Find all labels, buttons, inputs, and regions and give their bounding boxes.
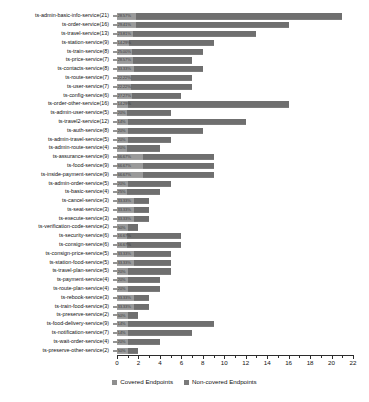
bar-segment-non-covered — [136, 22, 288, 28]
y-tick-mark — [113, 157, 117, 158]
y-axis-label: ts-assurance-service(9) — [53, 154, 109, 159]
bar-percentage-label: 33.33% — [118, 208, 131, 212]
bar-row: 20% — [117, 339, 160, 345]
y-tick-mark — [113, 271, 117, 272]
bar-row: 28.57% — [117, 13, 342, 19]
chart-legend: Covered Endpoints Non-covered Endpoints — [0, 379, 369, 385]
x-tick-minor — [128, 355, 129, 358]
bar-percentage-label: 25% — [118, 190, 126, 194]
plot-area: 28.57%29.41%23.81%14.29%25.00%28.57%33.3… — [117, 12, 353, 355]
y-axis-label: ts-consign-price-service(5) — [45, 251, 109, 256]
bar-percentage-label: 50% — [118, 225, 126, 229]
bar-segment-covered: 20% — [117, 136, 128, 142]
bar-row: 25.00% — [117, 48, 203, 54]
y-tick-mark — [113, 60, 117, 61]
bar-percentage-label: 28.57% — [118, 58, 131, 62]
bar-percentage-label: 14.29% — [118, 41, 131, 45]
y-tick-mark — [113, 95, 117, 96]
y-axis-label: ts-train-service(8) — [67, 49, 109, 54]
bar-segment-non-covered — [134, 216, 149, 222]
y-tick-mark — [113, 236, 117, 237]
bar-percentage-label: 20% — [118, 146, 126, 150]
bar-row: 33.33% — [117, 251, 171, 257]
legend-swatch-non-covered — [184, 380, 189, 385]
bar-segment-non-covered — [132, 92, 181, 98]
bar-segment-covered: 14.29% — [117, 101, 128, 107]
bar-segment-covered: 23.81% — [117, 31, 133, 37]
bar-row: 22.22% — [117, 84, 192, 90]
bar-segment-non-covered — [143, 154, 214, 160]
bar-row: 14% — [117, 321, 214, 327]
bar-segment-covered: 33.33% — [117, 304, 134, 310]
x-tick-label: 10 — [221, 360, 228, 366]
bar-segment-non-covered — [128, 119, 246, 125]
x-tick-label: 18 — [307, 360, 314, 366]
bar-percentage-label: 16.67% — [118, 243, 131, 247]
x-tick-minor — [149, 355, 150, 358]
bar-segment-covered: 50% — [117, 224, 128, 230]
y-axis-label: ts-payment-service(4) — [57, 278, 109, 283]
bar-segment-covered: 20% — [117, 268, 128, 274]
legend-item-non-covered: Non-covered Endpoints — [184, 379, 257, 385]
bar-segment-non-covered — [128, 277, 160, 283]
y-tick-mark — [113, 324, 117, 325]
bar-segment-non-covered — [143, 163, 214, 169]
y-axis-label: ts-travel-service(13) — [61, 31, 109, 36]
legend-swatch-covered — [112, 380, 117, 385]
bar-percentage-label: 33.33% — [118, 199, 131, 203]
y-tick-mark — [113, 77, 117, 78]
bar-segment-covered: 14% — [117, 321, 128, 327]
y-tick-mark — [113, 33, 117, 34]
legend-item-covered: Covered Endpoints — [112, 379, 173, 385]
bar-row: 33.33% — [117, 295, 149, 301]
bar-percentage-label: 14.29% — [118, 102, 131, 106]
x-tick-label: 22 — [350, 360, 357, 366]
y-axis-label: ts-admin-order-service(5) — [48, 181, 109, 186]
y-tick-mark — [113, 218, 117, 219]
bar-segment-non-covered — [128, 339, 160, 345]
bar-segment-covered: 20% — [117, 180, 128, 186]
bar-segment-covered: 33.33% — [117, 66, 134, 72]
y-axis-label: ts-security-service(6) — [59, 234, 109, 239]
bar-percentage-label: 50% — [118, 348, 126, 352]
y-tick-mark — [113, 350, 117, 351]
bar-segment-non-covered — [134, 66, 203, 72]
bar-segment-covered: 33.33% — [117, 216, 134, 222]
bar-percentage-label: 33.33% — [118, 261, 131, 265]
bar-segment-non-covered — [128, 330, 192, 336]
bar-percentage-label: 20% — [118, 129, 126, 133]
y-axis-label: ts-seat-service(3) — [67, 207, 109, 212]
bar-row: 14.29% — [117, 101, 289, 107]
y-tick-mark — [113, 245, 117, 246]
bar-percentage-label: 20% — [118, 269, 126, 273]
bar-segment-covered: 14% — [117, 330, 128, 336]
y-axis-label: ts-admin-user-service(5) — [51, 110, 109, 115]
bar-segment-covered: 20% — [117, 145, 127, 151]
bar-segment-non-covered — [127, 242, 182, 248]
bar-segment-non-covered — [132, 48, 203, 54]
bar-percentage-label: 20% — [118, 278, 126, 282]
bar-segment-non-covered — [134, 260, 170, 266]
bar-percentage-label: 14% — [118, 331, 126, 335]
bar-percentage-label: 14% — [118, 322, 126, 326]
bar-row: 66.67% — [117, 154, 214, 160]
bar-segment-covered: 27.27% — [117, 92, 132, 98]
y-tick-mark — [113, 51, 117, 52]
y-tick-mark — [113, 201, 117, 202]
y-axis-label: ts-station-service(9) — [62, 40, 109, 45]
bar-percentage-label: 14% — [118, 120, 126, 124]
y-tick-mark — [113, 148, 117, 149]
bar-row: 20% — [117, 286, 160, 292]
y-axis-label: ts-basic-service(4) — [65, 190, 109, 195]
bar-segment-non-covered — [134, 198, 149, 204]
bar-segment-covered: 14.29% — [117, 40, 129, 46]
x-tick-minor — [235, 355, 236, 358]
bar-percentage-label: 29.41% — [118, 23, 131, 27]
bar-segment-non-covered — [134, 251, 170, 257]
bar-segment-covered: 28.57% — [117, 57, 133, 63]
bar-percentage-label: 50% — [118, 313, 126, 317]
bar-segment-covered: 33.33% — [117, 198, 134, 204]
bar-row: 50% — [117, 224, 138, 230]
y-tick-mark — [113, 174, 117, 175]
bar-row: 20% — [117, 110, 171, 116]
